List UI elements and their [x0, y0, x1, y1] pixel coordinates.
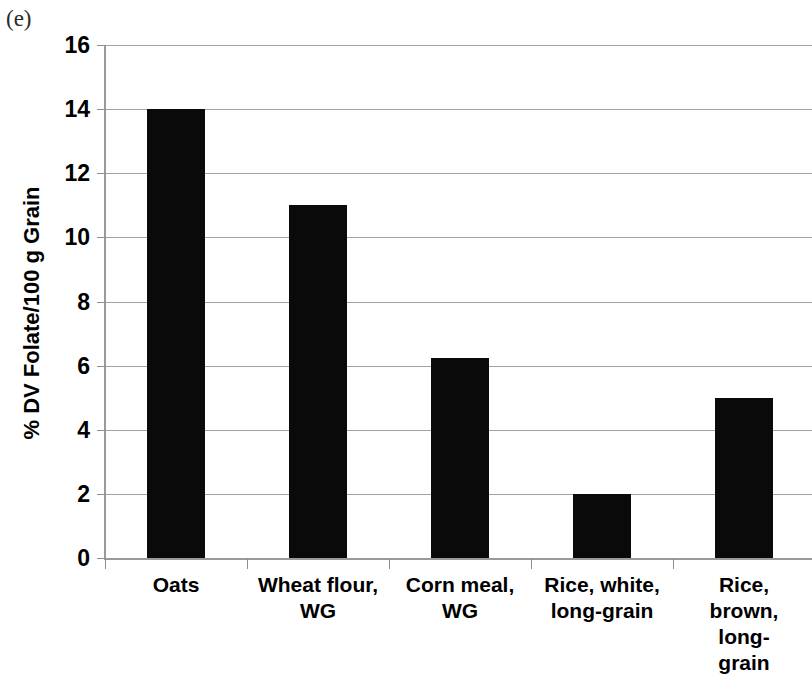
y-axis-tick-label: 8 [77, 288, 90, 315]
x-axis-tick [673, 558, 674, 569]
y-axis-tick-label: 10 [64, 224, 90, 251]
y-axis-tick [97, 494, 106, 495]
bar [573, 494, 631, 558]
panel-label: (e) [6, 6, 32, 32]
y-axis-title: % DV Folate/100 g Grain [19, 153, 45, 473]
y-axis-tick [97, 109, 106, 110]
y-axis-tick [97, 45, 106, 46]
y-axis-tick [97, 366, 106, 367]
y-axis-tick-label: 16 [64, 32, 90, 59]
x-axis-tick-label: Rice, white, long-grain [544, 572, 660, 624]
gridline [106, 302, 812, 303]
x-axis-tick [531, 558, 532, 569]
gridline [106, 109, 812, 110]
bar [431, 358, 489, 558]
bar [147, 109, 205, 558]
y-axis-tick-label: 14 [64, 96, 90, 123]
plot-area: 0246810121416 OatsWheat flour, WGCorn me… [104, 45, 812, 560]
gridline [106, 237, 812, 238]
bar [289, 205, 347, 558]
y-axis-tick-label: 12 [64, 160, 90, 187]
bar [715, 398, 773, 558]
x-axis-tick-label: Oats [153, 572, 200, 598]
y-axis-tick-label: 4 [77, 416, 90, 443]
x-axis-tick [105, 558, 106, 569]
gridline [106, 45, 812, 46]
x-axis-tick-label: Corn meal, WG [406, 572, 515, 624]
gridline [106, 173, 812, 174]
y-axis-tick-label: 0 [77, 545, 90, 572]
x-axis-tick-label: Rice, brown, long-grain [710, 572, 779, 676]
y-axis-tick-label: 6 [77, 352, 90, 379]
x-axis-tick [247, 558, 248, 569]
y-axis-tick-label: 2 [77, 480, 90, 507]
y-axis-tick [97, 173, 106, 174]
y-axis-tick [97, 430, 106, 431]
x-axis-tick-label: Wheat flour, WG [258, 572, 378, 624]
y-axis-tick [97, 302, 106, 303]
x-axis-tick [389, 558, 390, 569]
y-axis-tick [97, 237, 106, 238]
